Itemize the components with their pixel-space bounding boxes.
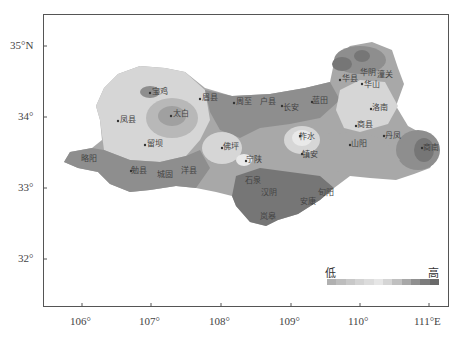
city-label: 镇安 <box>302 148 318 159</box>
city-label: 商县 <box>357 118 373 129</box>
legend-high-label: 高 <box>428 264 439 280</box>
city-label: 留坝 <box>147 137 163 148</box>
city-label: 华山 <box>364 78 380 89</box>
city-label: 蓝田 <box>312 94 328 105</box>
city-label: 洋县 <box>181 164 197 175</box>
lat-tick-35: 35°N <box>10 39 33 51</box>
legend-swatch <box>374 279 383 285</box>
city-label: 勉县 <box>131 164 147 175</box>
shaded-relief-map <box>0 0 463 340</box>
legend-swatch <box>364 279 373 285</box>
legend-swatch <box>383 279 392 285</box>
city-label: 石泉 <box>245 174 261 185</box>
city-label: 山阳 <box>351 137 367 148</box>
legend-swatch <box>411 279 420 285</box>
city-label: 太白 <box>173 107 189 118</box>
lon-tick-111: 111°E <box>414 315 441 327</box>
city-label: 略阳 <box>81 152 97 163</box>
city-label: 柞水 <box>299 130 315 141</box>
city-label: 华阴 <box>360 66 376 77</box>
city-label: 长安 <box>283 101 299 112</box>
lon-tick-107: 107° <box>139 315 160 327</box>
lon-tick-108: 108° <box>209 315 230 327</box>
legend-swatch <box>430 279 439 285</box>
city-label: 丹凤 <box>385 129 401 140</box>
city-label: 华县 <box>342 72 358 83</box>
city-label: 周至 <box>236 95 252 106</box>
city-label: 户县 <box>260 95 276 106</box>
city-label: 汉阴 <box>261 186 277 197</box>
legend-swatch <box>327 279 336 285</box>
legend-swatch <box>420 279 429 285</box>
city-label: 岚皋 <box>260 210 276 221</box>
lat-tick-33: 33° <box>18 181 33 193</box>
city-label: 安康 <box>300 195 316 206</box>
city-label: 佛坪 <box>223 140 239 151</box>
legend-low-label: 低 <box>325 264 336 280</box>
city-label: 旬阳 <box>318 186 334 197</box>
lat-tick-34: 34° <box>18 110 33 122</box>
legend-swatch <box>402 279 411 285</box>
city-label: 商南 <box>423 141 439 152</box>
city-label: 城固 <box>157 168 173 179</box>
legend-color-bar <box>327 279 439 285</box>
legend-swatch <box>346 279 355 285</box>
legend-swatch <box>392 279 401 285</box>
lon-tick-110: 110° <box>348 315 369 327</box>
lon-tick-109: 109° <box>279 315 300 327</box>
city-label: 洛南 <box>372 101 388 112</box>
lat-tick-32: 32° <box>18 252 33 264</box>
city-label: 宝鸡 <box>152 85 168 96</box>
city-label: 宁陕 <box>246 153 262 164</box>
lon-tick-106: 106° <box>70 315 91 327</box>
legend-swatch <box>355 279 364 285</box>
legend-swatch <box>336 279 345 285</box>
city-label: 眉县 <box>202 91 218 102</box>
city-label: 凤县 <box>120 113 136 124</box>
